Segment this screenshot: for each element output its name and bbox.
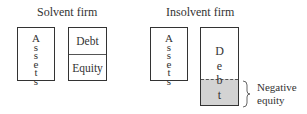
label-line: equity [257, 94, 297, 107]
insolvent-firm-title: Insolvent firm [166, 5, 234, 20]
letter: e [201, 59, 238, 74]
letter: s [151, 77, 187, 86]
negative-equity-label: Negative equity [257, 81, 297, 107]
solvent-liabilities-box: Debt Equity [68, 27, 107, 81]
letter: D [201, 44, 238, 59]
insolvent-assets-box: A s s e t s [150, 27, 188, 81]
solvent-assets-box: A s s e t s [17, 27, 55, 81]
solvent-debt-label: Debt [76, 35, 98, 47]
letter: t [201, 88, 238, 103]
insolvent-debt-box: D e b t [200, 27, 239, 106]
insolvent-assets-label: A s s e t s [151, 34, 187, 85]
insolvent-debt-label: D e b t [201, 44, 238, 102]
solvent-equity-cell: Equity [69, 55, 106, 80]
solvent-assets-label: A s s e t s [18, 34, 54, 85]
solvent-firm-title: Solvent firm [37, 5, 97, 20]
letter: s [18, 77, 54, 86]
label-line: Negative [257, 81, 297, 94]
curly-brace-icon [242, 80, 252, 108]
solvent-equity-label: Equity [72, 62, 103, 74]
letter: b [201, 73, 238, 88]
solvent-debt-cell: Debt [69, 28, 106, 55]
